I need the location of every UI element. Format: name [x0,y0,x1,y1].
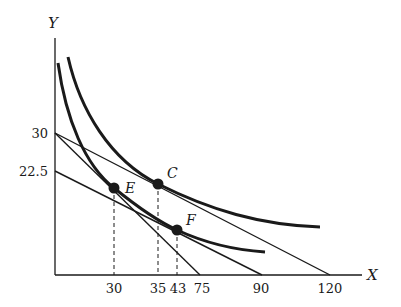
x-tick-75: 75 [194,281,211,296]
point-c [153,179,164,190]
point-e [109,183,120,194]
point-e-label: E [124,180,135,196]
indifference-curve-diagram: Y X 30 22.5 30 35 43 75 90 120 E C F [0,0,401,307]
x-tick-120: 120 [318,281,343,296]
point-c-label: C [167,165,178,181]
x-tick-30: 30 [106,281,123,296]
indifference-curve-lower [58,63,265,252]
budget-line-2 [55,133,330,275]
indifference-curve-upper [68,57,320,227]
x-tick-43: 43 [170,281,187,296]
y-tick-22-5: 22.5 [19,164,48,179]
budget-line-1 [55,133,200,275]
x-axis-label: X [366,266,379,284]
point-f [172,225,183,236]
point-f-label: F [185,212,197,228]
x-tick-35: 35 [150,281,167,296]
y-tick-30: 30 [31,126,48,141]
y-axis-label: Y [48,14,60,32]
x-tick-90: 90 [253,281,270,296]
